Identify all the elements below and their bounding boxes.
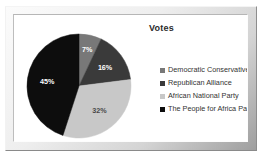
pie-slice-label: 45% <box>40 77 55 86</box>
chart-legend: Democratic ConservativesRepublican Allia… <box>160 64 248 116</box>
legend-item-label: The People for Africa Party <box>168 105 248 112</box>
legend-item: African National Party <box>160 90 248 102</box>
legend-swatch-icon <box>160 94 165 99</box>
pie-slice-label: 7% <box>82 45 93 54</box>
pie-slice-label: 16% <box>98 63 113 72</box>
legend-item: The People for Africa Party <box>160 103 248 115</box>
legend-item: Republican Alliance <box>160 77 248 89</box>
chart-plot-area: Votes 7%16%32%45% Democratic Conservativ… <box>13 14 248 142</box>
legend-item-label: African National Party <box>168 92 239 99</box>
legend-swatch-icon <box>160 81 165 86</box>
legend-item-label: Democratic Conservatives <box>168 66 248 73</box>
legend-item: Democratic Conservatives <box>160 64 248 76</box>
legend-item-label: Republican Alliance <box>168 79 232 86</box>
pie-chart-svg: 7%16%32%45% <box>26 33 132 139</box>
chart-title: Votes <box>14 23 247 33</box>
pie-slice-label: 32% <box>92 106 107 115</box>
legend-swatch-icon <box>160 107 165 112</box>
legend-swatch-icon <box>160 68 165 73</box>
pie-chart: 7%16%32%45% <box>26 33 132 139</box>
pie-slice-group <box>27 34 131 138</box>
chart-frame: Votes 7%16%32%45% Democratic Conservativ… <box>5 6 257 151</box>
